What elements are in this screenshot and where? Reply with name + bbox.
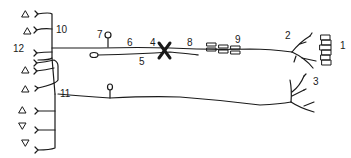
collateral-7-knob [105,32,111,38]
upper-axon [52,48,292,53]
label-3: 3 [313,77,319,87]
neuron-diagram: 1 2 3 4 5 6 7 8 9 10 11 12 [0,0,351,158]
terminal-arbor-2 [292,33,316,68]
target-cell-stack [320,35,331,65]
receptor-triangles [19,11,31,146]
label-5: 5 [139,57,145,67]
upper-trunk [34,11,52,60]
label-4: 4 [150,38,156,48]
label-6: 6 [127,38,133,48]
label-8: 8 [187,38,193,48]
label-10: 10 [56,25,67,35]
lesion-marker-icon [159,43,170,58]
label-7: 7 [97,30,103,40]
diagram-canvas [0,0,351,158]
fiber-5-terminal [90,53,98,58]
label-2: 2 [285,31,291,41]
lower-axon [58,94,291,105]
terminal-arbor-3 [290,74,314,112]
label-11: 11 [60,89,70,99]
label-9: 9 [235,35,241,45]
lower-trunk [34,58,58,153]
lower-collateral-knob [108,84,113,90]
label-1: 1 [340,41,346,51]
label-12: 12 [13,44,24,54]
fiber-5 [98,52,198,55]
